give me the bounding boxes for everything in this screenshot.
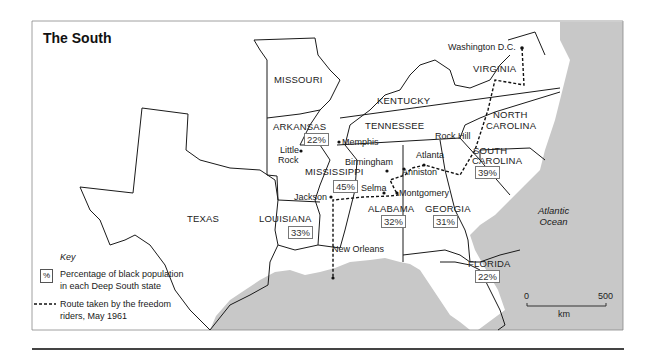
city-label-rock-hill: Rock Hill — [435, 131, 471, 141]
city-label-washington: Washington D.C. — [448, 42, 516, 52]
little-rock-dot — [299, 149, 302, 152]
key-pct-description: Percentage of black population in each D… — [60, 268, 184, 292]
state-label-florida: FLORIDA — [468, 259, 511, 269]
washington-dot — [520, 46, 524, 50]
pct-arkansas: 22% — [304, 133, 329, 146]
birmingham-dot — [385, 169, 388, 172]
state-label-alabama: ALABAMA — [368, 204, 414, 214]
city-label-montgomery: Montgomery — [399, 188, 449, 198]
scale-start: 0 — [524, 291, 529, 301]
key-route-description: Route taken by the freedom riders, May 1… — [60, 298, 171, 322]
pct-south-carolina: 39% — [475, 166, 500, 179]
map-title: The South — [43, 30, 111, 46]
city-label-birmingham: Birmingham — [345, 157, 393, 167]
state-label-georgia: GEORGIA — [425, 204, 471, 214]
ocean-line-1: Atlantic — [538, 205, 569, 216]
pct-florida: 22% — [475, 270, 500, 283]
city-label-anniston: Anniston — [402, 167, 437, 177]
key-route-line-2: riders, May 1961 — [60, 310, 171, 322]
state-label-arkansas: ARKANSAS — [273, 122, 326, 132]
jackson-dot — [329, 195, 332, 198]
state-label-kentucky: KENTUCKY — [377, 96, 430, 106]
key-pct-symbol: % — [40, 269, 53, 283]
state-label-louisiana: LOUISIANA — [259, 214, 311, 224]
scale-unit: km — [558, 309, 570, 319]
city-label-jackson: Jackson — [294, 192, 327, 202]
state-label-mississippi: MISSISSIPPI — [305, 167, 364, 177]
state-label-south-carolina-2: CAROLINA — [472, 156, 522, 166]
state-label-tennessee: TENNESSEE — [365, 121, 424, 131]
ocean-line-2: Ocean — [538, 216, 569, 227]
state-label-north-carolina-1: NORTH — [493, 110, 528, 120]
new-orleans-dot — [331, 276, 334, 279]
key-pct-line-2: in each Deep South state — [60, 280, 184, 292]
state-label-missouri: MISSOURI — [274, 75, 323, 85]
state-label-virginia: VIRGINIA — [473, 64, 516, 74]
scale-end: 500 — [598, 291, 613, 301]
memphis-dot — [337, 140, 340, 143]
city-label-memphis: Memphis — [342, 137, 379, 147]
key-route-line-1: Route taken by the freedom — [60, 298, 171, 310]
gulf-of-mexico-area — [210, 258, 470, 330]
city-label-little-rock-1: Little — [280, 145, 299, 155]
city-label-atlanta: Atlanta — [416, 150, 444, 160]
ocean-label-atlantic: Atlantic Ocean — [538, 205, 569, 227]
key-pct-line-1: Percentage of black population — [60, 268, 184, 280]
state-label-north-carolina-2: CAROLINA — [486, 121, 536, 131]
pct-alabama: 32% — [381, 215, 406, 228]
pct-georgia: 31% — [433, 215, 458, 228]
bottom-rule — [32, 348, 624, 350]
pct-mississippi: 45% — [333, 180, 358, 193]
state-label-texas: TEXAS — [187, 214, 219, 224]
city-label-selma: Selma — [361, 183, 387, 193]
key-title: Key — [60, 252, 76, 262]
pct-louisiana: 33% — [288, 226, 313, 239]
city-label-little-rock-2: Rock — [278, 155, 299, 165]
city-label-new-orleans: New Orleans — [332, 244, 384, 254]
